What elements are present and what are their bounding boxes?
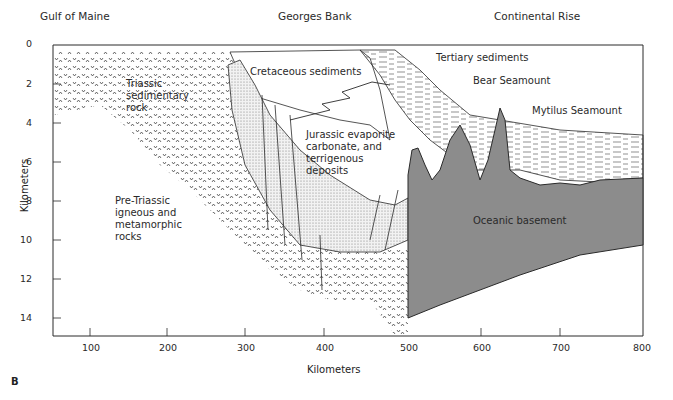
x-tick: 100	[82, 342, 100, 353]
x-tick: 200	[159, 342, 177, 353]
x-tick: 300	[237, 342, 255, 353]
x-axis-label: Kilometers	[307, 364, 361, 375]
label-cretaceous: Cretaceous sediments	[250, 66, 361, 78]
y-axis-label: Kilometers	[19, 156, 30, 216]
label-jurassic: Jurassic evaporite carbonate, and terrig…	[306, 129, 395, 177]
x-tick: 400	[316, 342, 334, 353]
region-georges-bank: Georges Bank	[278, 10, 351, 22]
y-tick: 4	[16, 117, 32, 128]
label-triassic: Triassic sedimentary rock	[126, 78, 189, 114]
x-tick: 700	[552, 342, 570, 353]
y-tick: 12	[16, 273, 32, 284]
region-gulf-of-maine: Gulf of Maine	[40, 10, 110, 22]
label-oceanic-basement: Oceanic basement	[473, 215, 566, 227]
label-bear-seamount: Bear Seamount	[473, 75, 551, 87]
y-tick: 2	[16, 78, 32, 89]
panel-label: B	[11, 376, 19, 387]
x-tick: 800	[633, 342, 651, 353]
x-tick: 600	[473, 342, 491, 353]
y-tick: 14	[16, 312, 32, 323]
cross-section-diagram	[0, 0, 673, 400]
region-continental-rise: Continental Rise	[494, 10, 580, 22]
label-mytilus-seamount: Mytilus Seamount	[532, 105, 622, 117]
y-tick: 10	[16, 234, 32, 245]
label-pre-triassic: Pre-Triassic igneous and metamorphic roc…	[115, 195, 182, 243]
x-tick: 500	[400, 342, 418, 353]
y-tick: 0	[16, 38, 32, 49]
label-tertiary: Tertiary sediments	[436, 52, 529, 64]
